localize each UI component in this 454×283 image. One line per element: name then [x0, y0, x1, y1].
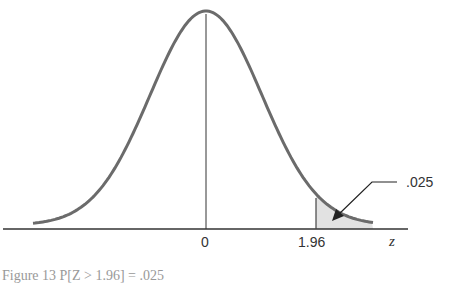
figure-caption: Figure 13 P[Z > 1.96] = .025 [2, 268, 164, 283]
tick-label-critical: 1.96 [298, 234, 325, 250]
normal-curve-chart [0, 0, 454, 283]
tick-label-zero: 0 [201, 234, 209, 250]
axis-label-z: z [389, 233, 395, 250]
annotation-arrow-line [338, 182, 397, 215]
area-annotation: .025 [406, 174, 433, 190]
shaded-tail-area [316, 194, 373, 229]
normal-curve [33, 11, 373, 223]
